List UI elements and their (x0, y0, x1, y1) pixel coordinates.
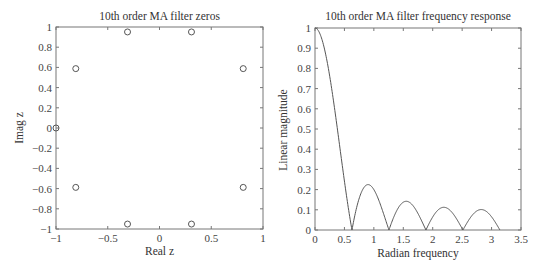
y-tick-label: 0.4 (297, 143, 311, 155)
y-tick-label: 0 (306, 224, 312, 236)
x-tick-label: 1 (371, 233, 377, 245)
zeros-plot-title: 10th order MA filter zeros (99, 10, 220, 22)
y-tick-label: 0.4 (38, 82, 52, 94)
y-tick-label: 0.6 (38, 61, 52, 73)
zeros-plot-y-label: Imag z (13, 112, 26, 144)
zero-marker (125, 221, 131, 227)
y-tick-label: 0.8 (297, 62, 311, 74)
x-tick-label: 0 (312, 233, 318, 245)
y-tick-label: 1 (306, 22, 312, 34)
frequency-response-title: 10th order MA filter frequency response (325, 10, 511, 23)
frequency-response-y-ticks: 00.10.20.30.40.50.60.70.80.91 (297, 22, 521, 236)
y-tick-label: 0.9 (297, 42, 311, 54)
zeros-plot-markers (53, 29, 246, 227)
frequency-response-plot: 10th order MA filter frequency response … (277, 10, 528, 260)
zeros-plot-y-ticks: −1−0.8−0.6−0.4−0.200.20.40.60.81 (32, 21, 263, 235)
y-tick-label: −0.4 (32, 162, 52, 174)
zero-marker (240, 184, 246, 190)
y-tick-label: −0.8 (32, 203, 52, 215)
x-tick-label: 3.5 (514, 233, 528, 245)
x-tick-label: 3 (489, 233, 495, 245)
figure: 10th order MA filter zeros −1−0.500.51 −… (0, 0, 542, 274)
zero-marker (73, 66, 79, 72)
x-tick-label: 0.5 (204, 232, 218, 244)
y-tick-label: 0.5 (297, 123, 311, 135)
frequency-response-x-ticks: 00.511.522.533.5 (312, 28, 528, 245)
x-tick-label: 1.5 (396, 233, 410, 245)
zeros-plot-axes-box (56, 27, 263, 229)
zero-marker (188, 29, 194, 35)
y-tick-label: −0.6 (32, 183, 52, 195)
zeros-plot: 10th order MA filter zeros −1−0.500.51 −… (13, 10, 266, 257)
frequency-response-curve (315, 28, 500, 230)
y-tick-label: 0 (47, 122, 53, 134)
x-tick-label: 1 (260, 232, 266, 244)
y-tick-label: −1 (40, 223, 52, 235)
y-tick-label: 0.2 (297, 184, 311, 196)
zero-marker (125, 29, 131, 35)
frequency-response-y-label: Linear magnitude (277, 89, 290, 170)
x-tick-label: 0 (157, 232, 163, 244)
zero-marker (240, 66, 246, 72)
frequency-response-x-label: Radian frequency (377, 247, 459, 260)
x-tick-label: 2 (430, 233, 436, 245)
zero-marker (73, 184, 79, 190)
y-tick-label: 0.2 (38, 102, 52, 114)
y-tick-label: 0.8 (38, 41, 52, 53)
y-tick-label: 0.3 (297, 163, 311, 175)
zeros-plot-x-label: Real z (145, 245, 174, 257)
x-tick-label: −0.5 (98, 232, 118, 244)
y-tick-label: 0.6 (297, 103, 311, 115)
x-tick-label: 2.5 (455, 233, 469, 245)
x-tick-label: 0.5 (338, 233, 352, 245)
y-tick-label: 1 (47, 21, 53, 33)
y-tick-label: 0.1 (297, 204, 311, 216)
y-tick-label: 0.7 (297, 83, 311, 95)
y-tick-label: −0.2 (32, 142, 52, 154)
zero-marker (188, 221, 194, 227)
zeros-plot-x-ticks: −1−0.500.51 (50, 27, 266, 244)
frequency-response-axes-box (315, 28, 521, 230)
